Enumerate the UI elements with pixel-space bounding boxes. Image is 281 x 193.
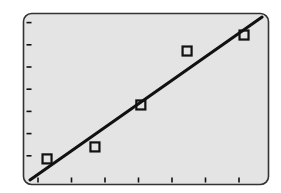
chart-canvas	[0, 0, 281, 193]
scatter-chart	[0, 0, 281, 193]
